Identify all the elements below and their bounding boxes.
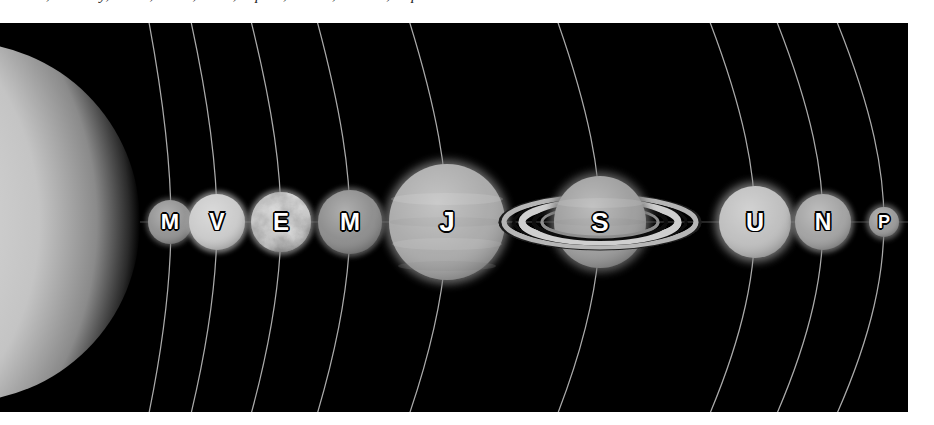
planet-saturn[interactable] bbox=[550, 172, 650, 272]
starfield-plate: M V E M J S U N P bbox=[0, 23, 908, 412]
solar-system-figure: the Sun, Mercury, Venus, Earth, Mars, Ju… bbox=[0, 0, 934, 425]
planet-jupiter[interactable] bbox=[385, 160, 509, 284]
solar-system-canvas bbox=[0, 23, 908, 412]
planet-earth[interactable] bbox=[248, 189, 314, 255]
planet-pluto[interactable] bbox=[866, 204, 902, 240]
planet-uranus[interactable] bbox=[715, 182, 795, 262]
planet-venus[interactable] bbox=[186, 191, 248, 253]
planet-neptune[interactable] bbox=[792, 191, 854, 253]
sun bbox=[0, 42, 140, 402]
figure-caption: the Sun, Mercury, Venus, Earth, Mars, Ju… bbox=[0, 0, 934, 9]
planet-mars[interactable] bbox=[315, 187, 385, 257]
